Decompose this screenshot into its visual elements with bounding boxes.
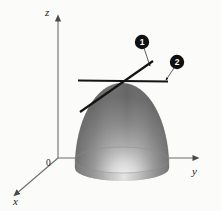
origin-label: 0: [46, 158, 51, 168]
callout-1-leader: [144, 48, 150, 66]
y-axis-label: y: [191, 165, 197, 177]
x-axis: [16, 158, 58, 194]
callout-1-label: 1: [140, 37, 145, 47]
callout-2-leader: [166, 68, 174, 80]
callout-2-label: 2: [175, 57, 180, 67]
z-axis-label: z: [44, 6, 50, 18]
figure-container: 1 2 z y x 0: [0, 0, 221, 211]
paraboloid-surface: [75, 83, 169, 181]
x-axis-label: x: [12, 195, 18, 207]
callout-1: 1: [135, 35, 150, 66]
paraboloid-side-shade: [75, 83, 169, 181]
paraboloid-tangent-figure: 1 2 z y x 0: [0, 0, 221, 211]
callout-2: 2: [166, 55, 184, 80]
